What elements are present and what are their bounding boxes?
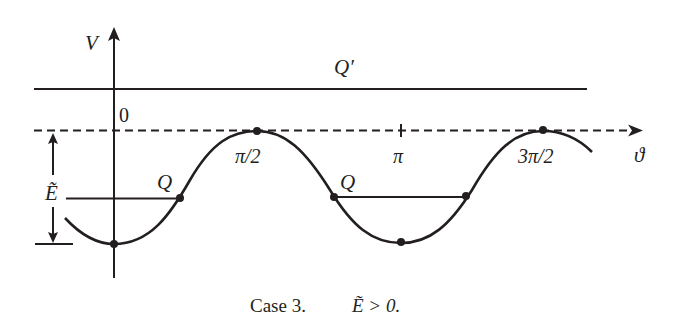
caption-case: Case 3. (250, 295, 306, 316)
point-q-left (176, 194, 184, 202)
v-axis-label: V (85, 31, 100, 55)
potential-curve (65, 131, 592, 244)
energy-label: Ẽ (44, 181, 58, 205)
origin-label: 0 (119, 104, 129, 126)
q-label-left: Q (157, 170, 172, 194)
tick-label-3pi-over-2: 3π/2 (517, 145, 554, 167)
q-prime-label: Q′ (334, 55, 354, 79)
point-q-right-a (330, 193, 338, 201)
theta-axis-label: ϑ (634, 143, 646, 167)
theta-axis-arrow-icon (628, 125, 643, 137)
tick-label-pi-over-2: π/2 (235, 145, 261, 167)
caption-condition: Ẽ > 0. (351, 295, 400, 316)
point-trough-pi (397, 238, 405, 246)
point-peak-pi-over-2 (253, 127, 261, 135)
point-q-right-b (462, 192, 470, 200)
point-trough-0 (110, 240, 118, 248)
point-peak-3pi-over-2 (539, 126, 547, 134)
tick-label-pi: π (393, 145, 404, 167)
potential-diagram: V Q′ 0 ϑ π/2 π 3π/2 Q Q Ẽ Case 3. Ẽ > 0. (0, 0, 679, 317)
q-label-right: Q (340, 170, 355, 194)
